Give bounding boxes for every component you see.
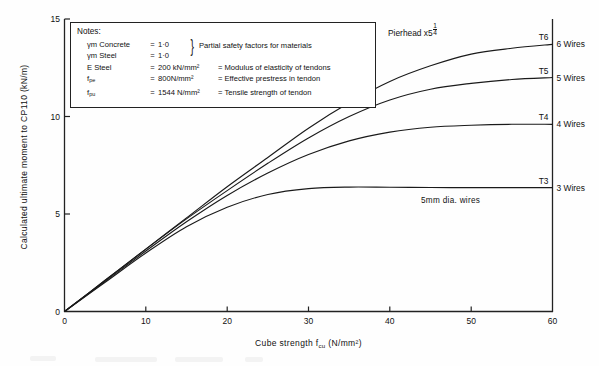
- x-tick-label: 50: [456, 316, 486, 326]
- x-tick-label: 0: [50, 316, 80, 326]
- x-tick-label: 10: [131, 316, 161, 326]
- notes-box: Notes: γm Concrete = 1·0 γm Steel = 1·0 …: [70, 22, 376, 108]
- notes-eq: =: [147, 39, 158, 51]
- notes-row-fpu: fpu = 1544 N/mm² = Tensile strength of t…: [77, 87, 370, 101]
- x-tick-label: 40: [375, 316, 405, 326]
- pierhead-title: Pierhead x514: [388, 23, 437, 38]
- scan-artifact: [245, 357, 263, 362]
- x-axis-label-subscript: cu: [318, 342, 325, 349]
- notes-eq: =: [147, 50, 158, 62]
- curve-label-t4: T4: [521, 112, 549, 122]
- notes-symbol: fpe: [77, 73, 147, 87]
- notes-row-gamma-steel: γm Steel = 1·0: [77, 50, 370, 62]
- notes-value: 1544 N/mm²: [158, 87, 218, 99]
- notes-symbol: E Steel: [77, 62, 147, 74]
- notes-symbol: γm Steel: [77, 50, 147, 62]
- scan-artifact: [175, 357, 223, 362]
- scan-artifact: [95, 357, 157, 362]
- wires-label-t5: 5 Wires: [557, 73, 585, 83]
- notes-symbol: fpu: [77, 87, 147, 101]
- curve-t5: [65, 78, 553, 312]
- notes-eq: =: [147, 62, 158, 74]
- wires-label-t4: 4 Wires: [557, 119, 585, 129]
- notes-desc: = Modulus of elasticity of tendons: [218, 62, 370, 74]
- notes-value: 1·0: [158, 50, 218, 62]
- brace-glyph: }: [190, 36, 193, 55]
- notes-row-fpe: fpe = 800N/mm² = Effective prestress in …: [77, 73, 370, 87]
- curve-label-t5: T5: [521, 66, 549, 76]
- curve-label-t6: T6: [521, 32, 549, 42]
- x-axis-label: Cube strength fcu (N/mm²): [64, 338, 553, 349]
- notes-row-e-steel: E Steel = 200 kN/mm² = Modulus of elasti…: [77, 62, 370, 74]
- notes-desc: = Tensile strength of tendon: [218, 87, 370, 99]
- notes-desc: = Effective prestress in tendon: [218, 73, 370, 85]
- curve-t3: [65, 187, 553, 311]
- wires-label-t3: 3 Wires: [557, 183, 585, 193]
- notes-value: 200 kN/mm²: [158, 62, 218, 74]
- x-tick-label: 30: [294, 316, 324, 326]
- notes-symbol: γm Concrete: [77, 39, 147, 51]
- curve-label-t3: T3: [521, 176, 549, 186]
- x-axis-label-unit: (N/mm²): [328, 338, 362, 348]
- notes-heading: Notes:: [77, 26, 370, 38]
- x-tick-label: 60: [538, 316, 568, 326]
- notes-eq: =: [147, 73, 158, 85]
- figure-canvas: Calculated ultimate moment to CP110 (kN/…: [0, 0, 599, 366]
- notes-eq: =: [147, 87, 158, 99]
- wires-label-t6: 6 Wires: [557, 39, 585, 49]
- x-axis-label-text: Cube strength f: [255, 338, 318, 348]
- x-tick-labels: 0102030405060: [0, 316, 599, 332]
- curve-t4: [65, 124, 553, 311]
- notes-value: 800N/mm²: [158, 73, 218, 85]
- wire-diameter-annotation: 5mm dia. wires: [421, 196, 480, 205]
- scan-artifact: [30, 356, 56, 361]
- x-tick-label: 20: [212, 316, 242, 326]
- safety-factors-text: Partial safety factors for materials: [199, 40, 312, 52]
